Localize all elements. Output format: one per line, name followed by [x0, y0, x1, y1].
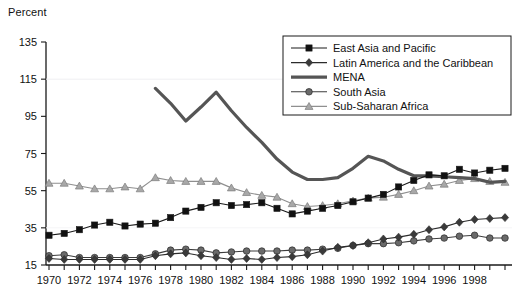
x-tick-label: 1988: [310, 274, 334, 286]
x-tick-label: 1982: [219, 274, 243, 286]
line-chart-svg: 1535557595115135 19701972197419761978198…: [0, 0, 515, 305]
data-point-square: [183, 208, 189, 214]
data-point-diamond: [410, 230, 417, 238]
chart-canvas: 1535557595115135 19701972197419761978198…: [0, 0, 515, 305]
legend-label: South Asia: [333, 86, 386, 98]
data-point-square: [441, 173, 447, 179]
data-point-diamond: [471, 215, 478, 223]
data-point-square: [320, 205, 326, 211]
data-point-square: [426, 172, 432, 178]
chart-legend: East Asia and PacificLatin America and t…: [283, 36, 511, 115]
data-point-diamond: [197, 252, 204, 260]
data-point-square: [456, 166, 462, 172]
x-tick-marks: [49, 265, 505, 270]
series-line: [49, 178, 505, 207]
data-point-diamond: [395, 233, 402, 241]
data-point-square: [487, 167, 493, 173]
x-tick-label: 1994: [402, 274, 426, 286]
data-point-square: [168, 215, 174, 221]
data-point-circle: [426, 236, 433, 243]
x-tick-label: 1990: [341, 274, 365, 286]
y-tick-label: 15: [25, 259, 37, 271]
data-point-circle: [259, 248, 266, 255]
x-tick-label: 1996: [432, 274, 456, 286]
data-point-square: [365, 195, 371, 201]
x-tick-label: 1986: [280, 274, 304, 286]
x-tick-labels: 1970197219741976197819801982198419861988…: [37, 274, 487, 286]
data-point-triangle: [227, 184, 235, 191]
y-tick-label: 95: [25, 110, 37, 122]
data-point-square: [46, 232, 52, 238]
data-point-square: [244, 202, 250, 208]
data-point-circle: [487, 235, 494, 242]
data-point-diamond: [258, 255, 265, 263]
data-point-triangle: [121, 183, 129, 190]
x-tick-label: 1984: [250, 274, 274, 286]
x-tick-label: 1970: [37, 274, 61, 286]
x-tick-label: 1980: [189, 274, 213, 286]
data-point-square: [152, 220, 158, 226]
data-point-circle: [502, 235, 509, 242]
data-point-square: [380, 191, 386, 197]
data-point-square: [335, 202, 341, 208]
data-point-square: [198, 204, 204, 210]
data-point-diamond: [228, 255, 235, 263]
x-tick-label: 1978: [158, 274, 182, 286]
data-point-circle: [471, 232, 478, 239]
legend-label: Latin America and the Caribbean: [333, 57, 493, 69]
data-point-square: [289, 211, 295, 217]
data-point-square: [92, 222, 98, 228]
data-point-square: [137, 221, 143, 227]
data-point-diamond: [486, 215, 493, 223]
data-point-square: [502, 165, 508, 171]
data-point-square: [107, 219, 113, 225]
y-tick-marks: [41, 42, 46, 265]
data-point-square: [304, 208, 310, 214]
data-point-diamond: [441, 223, 448, 231]
data-point-square: [274, 205, 280, 211]
y-tick-label: 35: [25, 222, 37, 234]
data-point-diamond: [425, 226, 432, 234]
data-point-diamond: [243, 254, 250, 262]
data-point-circle: [456, 233, 463, 240]
x-tick-label: 1998: [462, 274, 486, 286]
series-sub-saharan-africa: [45, 174, 509, 210]
data-point-square: [411, 177, 417, 183]
legend-label: Sub-Saharan Africa: [333, 100, 429, 112]
data-point-diamond: [456, 218, 463, 226]
x-tick-label: 1976: [128, 274, 152, 286]
data-point-square: [472, 170, 478, 176]
data-point-circle: [243, 248, 250, 255]
data-point-triangle: [288, 200, 296, 207]
data-point-circle: [228, 249, 235, 256]
y-tick-labels: 1535557595115135: [19, 36, 37, 271]
y-tick-label: 115: [19, 73, 37, 85]
data-point-square: [259, 200, 265, 206]
x-tick-label: 1974: [98, 274, 122, 286]
data-point-square: [61, 230, 67, 236]
data-point-square: [350, 199, 356, 205]
data-point-diamond: [289, 253, 296, 261]
y-tick-label: 55: [25, 185, 37, 197]
data-point-triangle: [151, 174, 159, 181]
data-point-square: [122, 223, 128, 229]
data-point-diamond: [273, 254, 280, 262]
x-tick-label: 1972: [67, 274, 91, 286]
data-point-circle: [441, 235, 448, 242]
y-tick-label: 75: [25, 148, 37, 160]
legend-label: MENA: [333, 71, 365, 83]
data-point-diamond: [501, 214, 508, 222]
data-point-diamond: [349, 241, 356, 249]
legend-label: East Asia and Pacific: [333, 42, 436, 54]
data-point-square: [228, 202, 234, 208]
data-point-circle: [306, 89, 313, 96]
data-point-square: [396, 184, 402, 190]
data-point-square: [306, 45, 312, 51]
x-tick-label: 1992: [371, 274, 395, 286]
data-point-square: [213, 200, 219, 206]
y-tick-label: 135: [19, 36, 37, 48]
data-point-square: [76, 227, 82, 233]
series-line: [49, 168, 505, 235]
chart-root: Percent 1535557595115135 197019721974197…: [0, 0, 515, 305]
